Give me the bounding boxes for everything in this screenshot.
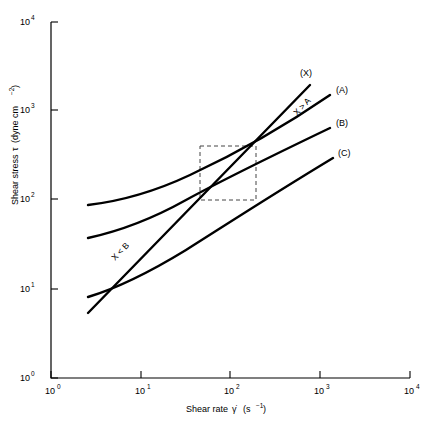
y-axis-tick-labels: 10 0 10 1 10 2 10 3 10 4 <box>20 14 35 383</box>
y-tick-exp-2: 2 <box>31 191 35 198</box>
x-tick-label-2: 10 <box>224 386 234 396</box>
y-axis-title-unit-close: ) <box>10 85 20 88</box>
y-tick-exp-1: 1 <box>31 281 35 288</box>
x-tick-exp-2: 2 <box>236 383 240 390</box>
x-axis-title-unit: (s <box>243 404 251 414</box>
y-tick-exp-3: 3 <box>31 102 35 109</box>
y-tick-label-2: 10 <box>20 194 30 204</box>
x-tick-label-0: 10 <box>45 386 55 396</box>
y-tick-label-3: 10 <box>20 105 30 115</box>
inset-dashed-box <box>200 146 256 200</box>
x-axis-title-unit-close: ) <box>263 404 266 414</box>
y-tick-exp-0: 0 <box>31 370 35 377</box>
curve-label-c: (C) <box>338 148 351 158</box>
x-tick-exp-4: 4 <box>416 383 420 390</box>
x-tick-label-1: 10 <box>135 386 145 396</box>
x-tick-label-3: 10 <box>314 386 324 396</box>
y-axis-title-main: Shear stress <box>10 154 20 205</box>
x-tick-label-4: 10 <box>404 386 414 396</box>
x-tick-exp-0: 0 <box>57 383 61 390</box>
y-axis-ticks <box>51 22 58 378</box>
y-axis-title-unit: (dyne cm <box>10 106 20 143</box>
y-axis-title-symbol: τ <box>10 147 20 151</box>
y-tick-exp-4: 4 <box>31 14 35 21</box>
x-axis-title: Shear rate γ̇ (s −1 ) <box>186 402 266 414</box>
figure-container: 10 0 10 1 10 2 10 3 10 4 10 0 10 1 10 <box>0 0 429 429</box>
y-tick-label-1: 10 <box>20 284 30 294</box>
x-axis-ticks <box>51 371 410 378</box>
chart-canvas: 10 0 10 1 10 2 10 3 10 4 10 0 10 1 10 <box>0 0 429 429</box>
x-axis-tick-labels: 10 0 10 1 10 2 10 3 10 4 <box>45 383 420 396</box>
annotation-x-less-b: X < B <box>109 240 131 262</box>
x-axis-title-main: Shear rate <box>186 404 228 414</box>
x-tick-exp-3: 3 <box>326 383 330 390</box>
y-axis-title: Shear stress τ (dyne cm −2 ) <box>8 85 20 205</box>
x-axis-title-symbol: γ̇ <box>232 404 238 414</box>
curve-label-a: (A) <box>336 85 348 95</box>
x-tick-exp-1: 1 <box>147 383 151 390</box>
y-tick-label-4: 10 <box>20 17 30 27</box>
curve-label-x: (X) <box>300 68 312 78</box>
y-tick-label-0: 10 <box>20 373 30 383</box>
curve-label-b: (B) <box>336 118 348 128</box>
